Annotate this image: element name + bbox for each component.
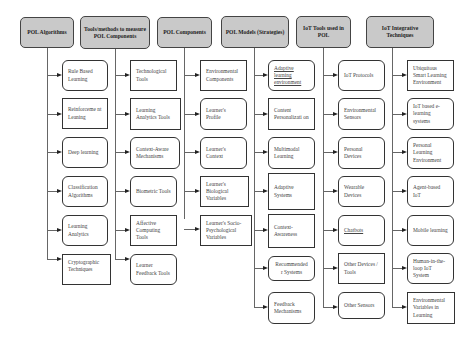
node-environmental-variables-in-learning: Environmental Variables in Learning — [407, 292, 455, 324]
node-label: Environmental Variables in Learning — [413, 297, 449, 318]
node-learner-feedback-tools: Learner Feedback Tools — [130, 254, 177, 285]
node-other-sensors: Other Sensors — [338, 292, 385, 319]
node-reinforcement-learning: Reinforceme nt Leaning — [62, 98, 108, 129]
node-label: Other Devices / Tools — [344, 261, 379, 275]
header-label: POL Models (Strategies) — [226, 29, 285, 36]
header-pol-models: POL Models (Strategies) — [221, 16, 289, 48]
node-learning-analytics-tools: Learning Analytics Tools — [130, 98, 181, 130]
node-label: Reinforceme nt Leaning — [68, 106, 102, 120]
node-label: Environmental Sensors — [344, 107, 379, 121]
node-label: Chatbots — [344, 227, 363, 234]
node-label: Multimodal Learning — [274, 146, 309, 160]
node-multimodal-learning: Multimodal Learning — [268, 137, 315, 169]
node-label: Other Sensors — [344, 302, 374, 309]
node-context-aware-mechanisms: Context-Aware Mechanisms — [130, 137, 180, 169]
node-label: Feedback Mechanisms — [274, 301, 309, 315]
node-human-in-the-loop-iot-system: Human-in-the-loop IoT System — [407, 253, 454, 284]
node-content-personalization: Content Personalizati on — [268, 98, 315, 130]
node-label: Deep learning — [68, 149, 98, 156]
node-mobile-learning: Mobile learning — [407, 215, 454, 246]
node-label: Wearable Devices — [344, 184, 379, 198]
connector-line — [392, 48, 393, 308]
node-label: Content Personalizati on — [274, 107, 309, 121]
node-learners-socio-psychological-variables: Learner's Socio-Psychological Variables — [200, 215, 252, 246]
node-environmental-components: Environmental Components — [200, 60, 247, 91]
node-agent-based-iot: Agent-based IoT — [407, 176, 454, 207]
node-label: Biometric Tools — [136, 188, 171, 195]
node-label: Personal Devices — [344, 146, 379, 160]
header-label: POL Algorithms — [27, 29, 66, 36]
header-pol-algorithms: POL Algorithms — [20, 17, 74, 48]
node-label: Human-in-the-loop IoT System — [413, 258, 448, 279]
pol-iot-taxonomy-diagram: POL Algorithms Tools/methods to measure … — [0, 0, 476, 344]
node-learners-profile: Learner's Profile — [200, 98, 247, 130]
node-iot-protocols: IoT Protocols — [338, 60, 385, 91]
node-learning-analytics: Learning Analytics — [62, 215, 108, 246]
node-label: Recommended r Systems — [274, 261, 309, 275]
node-adaptive-learning-environment: Adaptive learning environment — [268, 60, 315, 91]
node-learners-biological-variables: Learner's Biological Variables — [200, 176, 249, 207]
connector-line — [254, 48, 255, 308]
node-classification-algorithms: Classification Algorithms — [62, 176, 108, 207]
node-feedback-mechanisms: Feedback Mechanisms — [268, 292, 315, 324]
connector-line — [323, 48, 324, 308]
node-recommender-systems: Recommended r Systems — [268, 256, 315, 281]
node-technological-tools: Technological Tools — [130, 60, 177, 91]
node-personal-devices: Personal Devices — [338, 137, 385, 169]
node-label: Classification Algorithms — [68, 184, 102, 198]
node-wearable-devices: Wearable Devices — [338, 176, 385, 207]
node-other-devices-tools: Other Devices / Tools — [338, 253, 385, 284]
node-ubiquitous-smart-learning-environment: Ubiquitous Smart Learning Environment — [407, 60, 454, 91]
header-pol-components: POL Components — [157, 17, 212, 48]
header-label: IoT Tools used in POL — [300, 25, 347, 38]
node-label: Personal Learning Environment — [413, 142, 448, 163]
header-label: IoT Integrative Techniques — [370, 25, 430, 38]
node-label: Mobile learning — [413, 227, 448, 234]
node-label: Context-Aware Mechanisms — [136, 146, 174, 160]
node-adaptive-systems: Adaptive Systems — [268, 173, 315, 210]
node-label: IoT based e-learning systems — [413, 103, 448, 124]
node-label: Learner's Biological Variables — [206, 181, 243, 202]
node-label: Environmental Components — [206, 68, 241, 82]
node-deep-learning: Deep learning — [62, 137, 108, 168]
node-context-awareness: Context-Awareness — [268, 214, 315, 248]
connector-line — [115, 49, 116, 259]
node-learners-context: Learner's Context — [200, 137, 247, 169]
node-iot-based-elearning-systems: IoT based e-learning systems — [407, 98, 454, 130]
node-label: Adaptive Systems — [274, 184, 309, 198]
connector-line — [184, 48, 185, 219]
connector-line — [47, 48, 48, 259]
header-tools-methods: Tools/methods to measure POL Components — [80, 16, 150, 49]
node-label: Learning Analytics Tools — [136, 107, 175, 121]
node-label: Learner Feedback Tools — [136, 262, 171, 276]
node-label: Learning Analytics — [68, 223, 102, 237]
node-affective-computing-tools: Affective Computing Tools — [130, 215, 177, 246]
node-cryptographic-techniques: Cryptographic Techniques — [62, 254, 111, 285]
node-label: Learner's Context — [206, 146, 241, 160]
node-label: Ubiquitous Smart Learning Environment — [413, 65, 448, 86]
header-label: Tools/methods to measure POL Components — [84, 26, 146, 39]
node-label: Technological Tools — [136, 68, 171, 82]
node-rule-based-learning: Rule Based Learning — [62, 60, 108, 91]
node-environmental-sensors: Environmental Sensors — [338, 98, 385, 130]
node-label: Agent-based IoT — [413, 184, 448, 198]
header-iot-integrative: IoT Integrative Techniques — [366, 16, 434, 48]
node-label: Adaptive learning environment — [274, 65, 309, 86]
node-label: Learner's Profile — [206, 107, 241, 121]
node-personal-learning-environment: Personal Learning Environment — [407, 137, 454, 169]
node-label: Cryptographic Techniques — [68, 259, 105, 273]
node-label: IoT Protocols — [344, 72, 373, 79]
node-label: Rule Based Learning — [68, 68, 102, 82]
header-iot-tools: IoT Tools used in POL — [296, 16, 351, 48]
node-label: Affective Computing Tools — [136, 220, 171, 241]
node-chatbots: Chatbots — [338, 215, 385, 246]
node-label: Learner's Socio-Psychological Variables — [206, 220, 246, 241]
node-biometric-tools: Biometric Tools — [130, 176, 177, 207]
header-label: POL Components — [163, 29, 206, 36]
node-label: Context-Awareness — [274, 224, 309, 238]
